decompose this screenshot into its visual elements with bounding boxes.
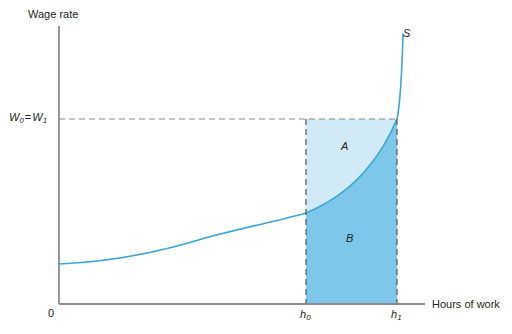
h1-tick-label: h1: [391, 309, 402, 322]
wage-supply-figure: Wage rate Hours of work 0 W0=W1 h0 h1 A …: [0, 0, 512, 334]
region-b-label: B: [346, 233, 353, 244]
h1-subscript: 1: [397, 313, 401, 322]
x-axis-title: Hours of work: [432, 299, 500, 310]
region-a-label: A: [341, 141, 348, 152]
y-axis-title: Wage rate: [28, 9, 78, 20]
wage-level-w1-base: W: [32, 111, 42, 123]
h0-subscript: 0: [306, 313, 310, 322]
origin-label: 0: [48, 308, 54, 319]
wage-level-w0-base: W: [9, 111, 19, 123]
chart-canvas: [0, 0, 512, 334]
wage-level-w1-subscript: 1: [43, 116, 47, 125]
h0-tick-label: h0: [300, 309, 311, 322]
wage-level-label: W0=W1: [9, 112, 47, 125]
supply-curve-label: S: [403, 28, 410, 39]
